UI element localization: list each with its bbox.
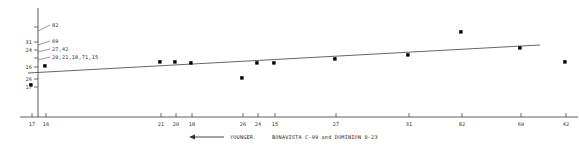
- x-axis-tick-label-4: 18: [189, 121, 196, 127]
- x-axis-tick-label-8: 27: [333, 121, 340, 127]
- y-axis-ticks: [34, 27, 38, 87]
- y-leader-label-27-42: 27,42: [52, 46, 69, 52]
- data-point: [459, 30, 462, 33]
- y-axis-label-16: 16: [18, 64, 32, 70]
- x-axis-tick-label-6: 24: [255, 121, 262, 127]
- data-point: [189, 61, 192, 64]
- figure-caption: BONAVISTA C-99 and DOMINION 0-23: [272, 134, 378, 140]
- data-point: [158, 60, 161, 63]
- data-point: [406, 53, 409, 56]
- x-axis-tick-label-0: 17: [29, 121, 36, 127]
- data-point: [333, 57, 336, 60]
- x-axis-tick-label-9: 31: [406, 121, 413, 127]
- younger-arrow-icon: [189, 135, 224, 140]
- data-point: [240, 76, 243, 79]
- y-axis-label-31: 31: [18, 39, 32, 45]
- y-label-leader-lines: [38, 25, 50, 60]
- data-point: [173, 60, 176, 63]
- y-leader-label-82: 82: [52, 22, 59, 28]
- x-axis-ticks: [32, 113, 566, 117]
- data-point: [563, 60, 566, 63]
- y-leader-label-69: 69: [52, 38, 59, 44]
- plot-canvas: [0, 0, 579, 153]
- younger-direction-label: YOUNGER: [230, 134, 253, 140]
- y-axis-label-17: 17: [18, 84, 32, 90]
- y-axis-label-26: 26: [18, 76, 32, 82]
- x-axis-tick-label-10: 82: [459, 121, 466, 127]
- x-axis-tick-label-2: 21: [158, 121, 165, 127]
- data-point: [272, 61, 275, 64]
- x-axis-tick-label-12: 42: [563, 121, 570, 127]
- data-point: [518, 46, 521, 49]
- x-axis-tick-label-11: 69: [518, 121, 525, 127]
- data-point: [43, 64, 46, 67]
- x-axis-tick-label-3: 20: [173, 121, 180, 127]
- x-axis-tick-label-7: 15: [272, 121, 279, 127]
- x-axis-tick-label-1: 16: [43, 121, 50, 127]
- scatter-plot-figure: 82 69 27,42 20,21,18,71,15 31 24 16 26 1…: [0, 0, 579, 153]
- y-leader-label-group: 20,21,18,71,15: [52, 54, 98, 60]
- trend-line: [28, 45, 540, 73]
- x-axis-tick-label-5: 26: [240, 121, 247, 127]
- data-point: [255, 61, 258, 64]
- y-axis-label-24: 24: [18, 47, 32, 53]
